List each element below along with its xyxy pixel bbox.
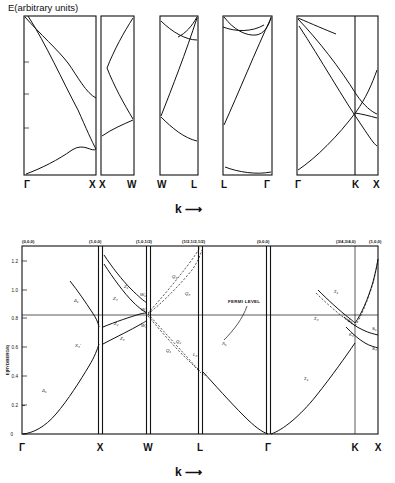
kcoord-gamma-2: (0,0,0): [257, 239, 270, 244]
top-panel-y-axis-title: E(arbitrary units): [8, 2, 78, 13]
y-tick-0: 0: [10, 432, 13, 437]
kcoord-l: (1/2,1/2,1/2): [182, 239, 206, 244]
top-panel-1-right-label: X: [89, 179, 96, 190]
kcoord-gamma-1: (0,0,0): [22, 239, 35, 244]
band-label-q1: Q₁: [166, 348, 171, 353]
plot-frame: [22, 246, 378, 434]
band-label-l2p: L₂': [202, 371, 207, 376]
band-label-k1: K₁: [348, 318, 353, 323]
top-panel-2-right-label: W: [127, 179, 137, 190]
top-panel: E(arbitrary units) Γ X X W: [8, 2, 380, 216]
top-panel-3-left-label: W: [157, 179, 167, 190]
bottom-k-labels: Γ X W L Γ K X: [19, 442, 382, 453]
k-label-x-1: X: [97, 442, 104, 453]
y-axis: 0 0.2 0.4 0.6 0.8 1.0 1.2 E(RYDBERGS): [5, 259, 27, 437]
band-label-z2: Z₂: [113, 321, 119, 326]
band-label-delta1-upper: Δ₁: [73, 298, 79, 303]
top-panel-1-left-label: Γ: [24, 179, 30, 190]
top-panel-1-gamma-x: Γ X: [24, 16, 96, 190]
k-label-gamma-1: Γ: [19, 442, 25, 453]
top-panel-5-gamma-k-x: Γ K X: [295, 16, 380, 190]
band-label-q2: Q₂: [176, 339, 181, 344]
band-curves: [23, 247, 378, 434]
band-label-w3: W₃: [141, 307, 147, 312]
top-panel-4-left-label: L: [221, 179, 227, 190]
k-label-l: L: [197, 442, 203, 453]
band-label-sigma3: Σ₃: [313, 316, 319, 321]
y-tick-12: 1.2: [12, 259, 19, 264]
bottom-panel-x-axis-title: k ⟶: [175, 465, 202, 479]
k-label-x-2: X: [375, 442, 382, 453]
top-panel-x-axis-title: k ⟶: [175, 202, 202, 216]
band-label-s1: S₁: [372, 326, 377, 331]
kcoord-w: (1,0,1/2): [136, 239, 153, 244]
top-k-coordinates: (0,0,0) (1,0,0) (1,0,1/2) (1/2,1/2,1/2) …: [22, 239, 382, 244]
fermi-level-leader: [224, 306, 247, 340]
k-label-w: W: [143, 442, 153, 453]
top-panel-2-x-w: X W: [99, 16, 137, 190]
top-panel-5-left-label: Γ: [295, 179, 301, 190]
band-label-delta1-lower: Δ₁: [41, 388, 47, 393]
band-label-lambda1: Λ₁: [221, 341, 227, 346]
y-tick-10: 1.0: [12, 288, 19, 293]
top-panel-4-right-label: Γ: [264, 179, 270, 190]
symmetry-dividers: [99, 246, 356, 434]
y-tick-02: 0.2: [12, 403, 19, 408]
band-label-z4: Z₄: [112, 296, 118, 301]
bottom-panel: 0 0.2 0.4 0.6 0.8 1.0 1.2 E(RYDBERGS) (0…: [5, 239, 382, 479]
band-label-z3: Z₃: [119, 336, 125, 341]
kcoord-x-2: (1,0,0): [369, 239, 382, 244]
y-axis-title: E(RYDBERGS): [5, 344, 10, 375]
figure-svg: E(arbitrary units) Γ X X W: [0, 0, 395, 483]
band-label-k3: K₃: [349, 332, 354, 337]
y-tick-08: 0.8: [12, 316, 19, 321]
band-label-x4p: X₄': [74, 343, 81, 348]
band-label-w1: W₁: [140, 292, 146, 297]
band-labels: Δ₁ Δ₁ X₄' Z₁ Z₄ Z₂ Z₃ W₁ W₃ W₂ Q₄ Q₃ Q₂ …: [41, 274, 377, 393]
kcoord-x-1: (1,0,0): [89, 239, 102, 244]
k-label-gamma-2: Γ: [265, 442, 271, 453]
top-panel-3-w-l: W L: [157, 16, 198, 190]
k-label-k: K: [351, 442, 359, 453]
top-panel-5-mid-label: K: [352, 179, 360, 190]
band-label-sigma1: Σ₁: [303, 376, 309, 381]
y-tick-06: 0.6: [12, 345, 19, 350]
band-label-sigma1-up: Σ₁: [333, 289, 339, 294]
band-label-s4: S₄: [372, 346, 377, 351]
top-panel-2-left-label: X: [99, 179, 106, 190]
band-label-z1: Z₁: [123, 284, 129, 289]
band-structure-figure: E(arbitrary units) Γ X X W: [0, 0, 395, 483]
top-panel-4-l-gamma: L Γ: [221, 16, 272, 190]
band-label-l3: L₃: [193, 352, 197, 357]
top-panel-5-right-label: X: [373, 179, 380, 190]
fermi-level-label: FERMI LEVEL: [228, 299, 260, 304]
band-label-q4: Q₄: [172, 274, 177, 279]
top-panel-3-right-label: L: [191, 179, 197, 190]
band-label-w2: W₂: [141, 323, 147, 328]
y-tick-04: 0.4: [12, 374, 19, 379]
kcoord-k: (3/4,3/4,0): [336, 239, 356, 244]
band-label-q3: Q₃: [185, 291, 190, 296]
